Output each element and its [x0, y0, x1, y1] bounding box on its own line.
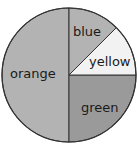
- label-orange: orange: [10, 66, 56, 81]
- label-blue: blue: [73, 24, 101, 39]
- label-yellow: yellow: [89, 54, 131, 69]
- pie-chart: orange blue yellow green: [0, 0, 137, 149]
- label-green: green: [81, 100, 119, 115]
